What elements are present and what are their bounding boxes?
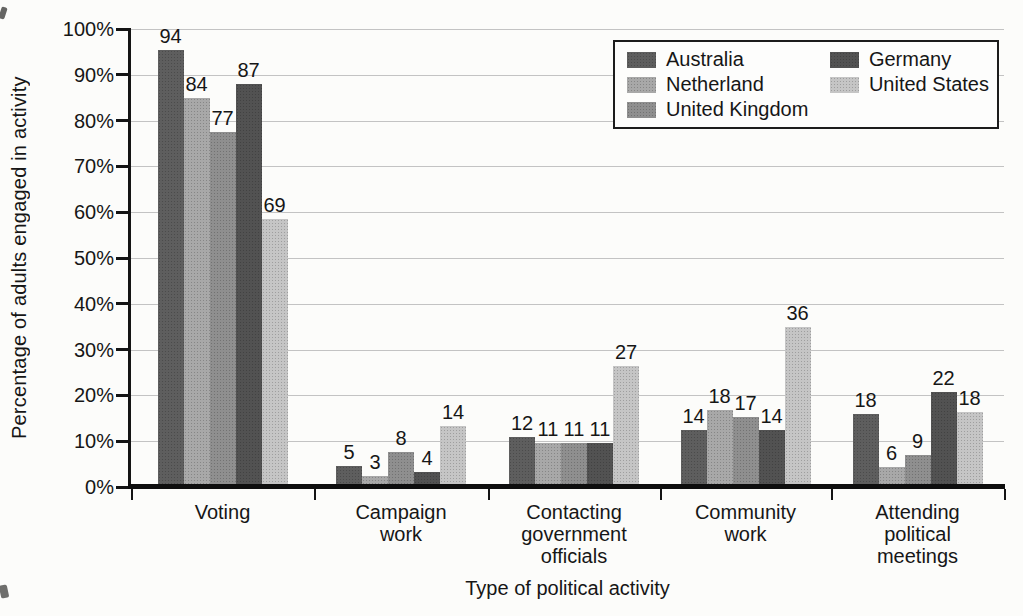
bar-value-label: 4 <box>421 447 432 470</box>
category-label-attending-political-meetings: Attending political meetings <box>831 501 1004 567</box>
legend-swatch-united-states <box>830 77 859 93</box>
category-label-contacting-government-officials: Contacting government officials <box>488 501 660 567</box>
bar-netherland-voting: 84 <box>184 98 210 487</box>
legend-swatch-netherland <box>627 77 656 93</box>
bar-value-label: 84 <box>185 73 207 96</box>
category-label-community-work: Community work <box>660 501 831 545</box>
legend-label-netherland: Netherland <box>666 73 764 96</box>
y-tick-label: 80% <box>18 110 114 132</box>
bar-chart: Percentage of adults engaged in activity… <box>0 0 1023 616</box>
bar-netherland-contacting-government-officials: 11 <box>535 443 561 487</box>
bar-value-label: 18 <box>854 389 876 412</box>
bar-australia-attending-political-meetings: 18 <box>853 414 879 487</box>
bar-germany-attending-political-meetings: 22 <box>931 392 957 487</box>
category-label-voting: Voting <box>131 501 314 523</box>
legend-item-united-kingdom: United Kingdom <box>627 97 830 122</box>
category-separator-tick <box>660 489 662 500</box>
bar-value-label: 17 <box>734 392 756 415</box>
bar-value-label: 11 <box>538 418 559 441</box>
bar-united-states-voting: 69 <box>262 219 288 487</box>
bar-value-label: 14 <box>442 401 464 424</box>
bar-australia-contacting-government-officials: 12 <box>509 437 535 487</box>
bar-germany-contacting-government-officials: 11 <box>587 443 613 487</box>
legend-label-united-states: United States <box>869 73 989 96</box>
bar-value-label: 14 <box>682 405 704 428</box>
bar-united-states-campaign-work: 14 <box>440 426 466 487</box>
legend-item-netherland: Netherland <box>627 72 830 97</box>
legend-item-united-states: United States <box>830 72 989 97</box>
bar-united-states-attending-political-meetings: 18 <box>957 412 983 487</box>
bar-value-label: 11 <box>590 418 611 441</box>
y-tick-label: 40% <box>18 293 114 315</box>
legend: AustraliaNetherlandUnited KingdomGermany… <box>613 40 999 129</box>
x-axis-line <box>128 484 1005 489</box>
bar-value-label: 18 <box>958 387 980 410</box>
category-separator-tick <box>831 489 833 500</box>
legend-label-australia: Australia <box>666 48 744 71</box>
bar-united-kingdom-attending-political-meetings: 9 <box>905 455 931 487</box>
bar-australia-community-work: 14 <box>681 430 707 487</box>
bar-united-states-contacting-government-officials: 27 <box>613 366 639 487</box>
bar-value-label: 36 <box>786 302 808 325</box>
y-tick-label: 90% <box>18 64 114 86</box>
bar-group-campaign-work: 538414 <box>314 29 488 487</box>
legend-swatch-australia <box>627 52 656 68</box>
bar-value-label: 5 <box>343 441 354 464</box>
bar-australia-voting: 94 <box>158 50 184 487</box>
category-separator-tick <box>1004 489 1006 500</box>
bar-value-label: 94 <box>159 25 181 48</box>
bar-value-label: 6 <box>886 442 897 465</box>
bar-value-label: 9 <box>912 430 923 453</box>
y-tick-label: 100% <box>18 18 114 40</box>
legend-column: AustraliaNetherlandUnited Kingdom <box>627 47 830 122</box>
bar-united-kingdom-voting: 77 <box>210 132 236 487</box>
bar-germany-community-work: 14 <box>759 430 785 487</box>
legend-item-australia: Australia <box>627 47 830 72</box>
category-separator-tick <box>131 489 133 500</box>
bar-netherland-community-work: 18 <box>707 410 733 487</box>
bar-value-label: 69 <box>263 194 285 217</box>
y-tick-label: 0% <box>18 476 114 498</box>
category-separator-tick <box>488 489 490 500</box>
legend-label-germany: Germany <box>869 48 951 71</box>
bar-value-label: 11 <box>564 418 585 441</box>
bar-value-label: 27 <box>615 341 637 364</box>
bar-value-label: 87 <box>237 59 259 82</box>
scan-artifact <box>0 6 8 19</box>
bar-germany-voting: 87 <box>236 84 262 487</box>
bar-united-states-community-work: 36 <box>785 327 811 487</box>
legend-label-united-kingdom: United Kingdom <box>666 98 808 121</box>
y-tick-label: 60% <box>18 201 114 223</box>
bar-value-label: 14 <box>760 405 782 428</box>
bar-united-kingdom-campaign-work: 8 <box>388 452 414 487</box>
legend-item-germany: Germany <box>830 47 989 72</box>
scan-artifact <box>0 584 9 598</box>
bar-value-label: 12 <box>511 412 533 435</box>
bar-value-label: 8 <box>395 427 406 450</box>
bar-united-kingdom-contacting-government-officials: 11 <box>561 443 587 487</box>
bar-value-label: 3 <box>369 451 380 474</box>
bar-value-label: 18 <box>708 385 730 408</box>
y-axis-line <box>128 29 131 488</box>
y-tick-label: 50% <box>18 247 114 269</box>
y-tick-label: 10% <box>18 430 114 452</box>
y-tick-label: 30% <box>18 339 114 361</box>
legend-swatch-united-kingdom <box>627 102 656 118</box>
bar-united-kingdom-community-work: 17 <box>733 417 759 487</box>
y-tick-label: 70% <box>18 155 114 177</box>
y-tick-label: 20% <box>18 384 114 406</box>
category-label-campaign-work: Campaign work <box>314 501 488 545</box>
x-axis-title: Type of political activity <box>131 577 1004 600</box>
legend-swatch-germany <box>830 52 859 68</box>
bar-value-label: 77 <box>211 107 233 130</box>
category-separator-tick <box>314 489 316 500</box>
bar-value-label: 22 <box>932 367 954 390</box>
bar-group-voting: 9484778769 <box>131 29 314 487</box>
legend-column: GermanyUnited States <box>830 47 989 122</box>
